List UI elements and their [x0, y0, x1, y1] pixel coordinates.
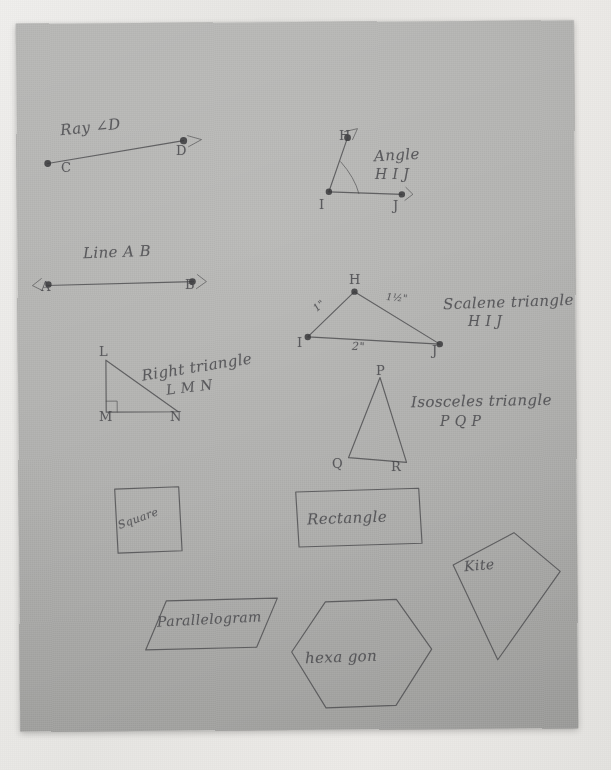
- point-label-r: R: [391, 459, 401, 474]
- point-label-i-scalene: I: [297, 335, 303, 350]
- point-label-m: M: [99, 409, 113, 424]
- point-label-q: Q: [332, 456, 343, 471]
- hexagon-label: hexa gon: [305, 647, 378, 668]
- figure-scalene-triangle: [304, 288, 443, 348]
- rectangle-label: Rectangle: [307, 508, 388, 529]
- point-label-h-angle: H: [339, 128, 351, 143]
- scalene-side-hj-length: 1½": [386, 291, 409, 304]
- point-label-c: C: [61, 160, 71, 175]
- line-caption: Line A B: [83, 242, 151, 262]
- point-label-n: N: [170, 409, 182, 424]
- screenshot-root: Ray ∠D C D H I J Angle H I J Line A B A …: [0, 0, 611, 770]
- angle-caption-line1: Angle: [374, 145, 421, 165]
- isosceles-caption-line1: Isosceles triangle: [411, 391, 552, 411]
- kite-label: Kite: [463, 556, 495, 575]
- scalene-side-ij-length: 2": [352, 340, 366, 354]
- point-label-j-scalene: J: [432, 343, 438, 358]
- point-label-h-scalene: H: [349, 272, 361, 287]
- figure-line-ab: [32, 275, 206, 291]
- point-label-b: B: [185, 277, 195, 292]
- figure-isosceles-triangle: [348, 377, 407, 462]
- point-label-j-angle: J: [393, 198, 399, 213]
- figure-kite: [453, 532, 561, 660]
- point-label-l: L: [99, 344, 108, 359]
- point-label-a: A: [41, 279, 51, 294]
- point-label-d: D: [176, 143, 187, 158]
- scalene-caption-line2: H I J: [468, 313, 502, 329]
- point-label-p: P: [376, 363, 385, 378]
- angle-caption-line2: H I J: [375, 166, 409, 182]
- point-label-i-angle: I: [319, 197, 325, 212]
- isosceles-caption-line2: P Q P: [440, 413, 481, 429]
